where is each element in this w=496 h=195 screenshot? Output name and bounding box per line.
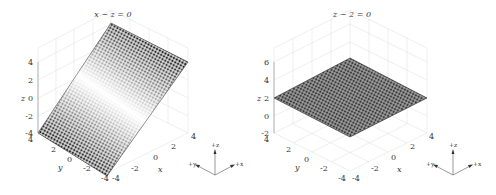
triad-y-label: +y [426,160,435,168]
right-xtick: -2 [371,164,379,173]
right-ytick: -2 [320,164,328,173]
right-chart: z − 2 = 0 6 4 2 0 -2 z [256,10,482,183]
left-ytick: 2 [51,145,56,154]
left-z-label: z [20,94,26,103]
right-ztick: 6 [264,58,269,67]
right-ytick: 2 [286,145,291,154]
right-x-label: x [397,165,402,174]
left-xtick: 0 [153,153,158,162]
triad-z-label: +z [211,141,219,148]
right-xtick: 2 [410,142,415,151]
left-chart: x − z = 0 4 2 0 -2 -4 z 4 2 [20,10,244,183]
left-ytick: -2 [83,164,91,173]
right-xtick: 4 [429,132,434,141]
triad-x-label: +x [473,160,482,167]
right-ztick: 2 [264,94,269,103]
right-ytick: 4 [264,135,269,144]
right-ztick: 4 [264,76,269,85]
left-surface [38,23,188,176]
triad-x-label: +x [235,160,244,167]
right-xtick: -4 [352,174,360,183]
left-ztick: 2 [28,76,33,85]
left-ytick: 4 [28,135,33,144]
figure: x − z = 0 4 2 0 -2 -4 z 4 2 [0,0,496,195]
triad-z-label: +z [449,141,457,148]
left-ytick: 0 [67,155,72,164]
left-orientation-triad: +z +y +x [188,141,244,175]
left-ztick: 0 [28,94,33,103]
left-x-label: x [158,165,163,174]
left-xtick: -2 [131,164,139,173]
left-y-label: y [57,163,63,172]
right-orientation-triad: +z +y +x [426,141,482,175]
triad-y-label: +y [188,160,197,168]
left-ytick: -4 [101,174,109,183]
right-y-label: y [294,163,300,172]
right-surface [274,58,427,137]
left-ztick: -2 [25,112,33,121]
left-xtick: -4 [112,174,120,183]
left-ztick: 4 [28,58,33,67]
right-ytick: -4 [338,174,346,183]
right-ztick: 0 [264,112,269,121]
left-xtick: 2 [171,142,176,151]
left-xtick: 4 [191,132,196,141]
right-xtick: 0 [391,153,396,162]
right-ytick: 0 [304,155,309,164]
right-z-label: z [256,94,262,103]
